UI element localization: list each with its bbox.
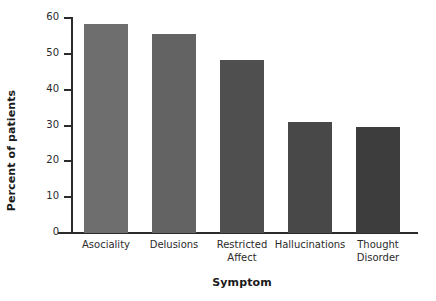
y-tick-label: 50 xyxy=(33,47,59,58)
y-tick-mark xyxy=(64,125,72,127)
bar-chart: Percent of patients 0102030405060 Asocia… xyxy=(0,0,436,301)
bar xyxy=(220,60,264,233)
y-axis-title: Percent of patients xyxy=(0,0,22,301)
y-tick-label: 10 xyxy=(33,190,59,201)
x-category-label-line: Thought xyxy=(338,239,418,252)
x-category-label-line: Disorder xyxy=(338,252,418,265)
y-tick-mark xyxy=(64,17,72,19)
y-tick-label: 60 xyxy=(33,11,59,22)
bar xyxy=(84,24,128,233)
bar xyxy=(356,127,400,233)
y-tick-label: 20 xyxy=(33,154,59,165)
y-tick-label: 0 xyxy=(33,226,59,237)
y-tick-mark xyxy=(64,53,72,55)
y-tick-mark xyxy=(64,89,72,91)
y-tick-label: 30 xyxy=(33,119,59,130)
plot-area xyxy=(72,18,412,233)
y-tick-label: 40 xyxy=(33,83,59,94)
y-tick-mark xyxy=(64,160,72,162)
x-category-label-line: Affect xyxy=(202,252,282,265)
x-axis-title: Symptom xyxy=(72,276,412,289)
bar xyxy=(152,34,196,233)
y-tick-mark xyxy=(64,196,72,198)
x-category-label: ThoughtDisorder xyxy=(338,239,418,264)
y-tick-mark xyxy=(64,232,72,234)
bar xyxy=(288,122,332,233)
